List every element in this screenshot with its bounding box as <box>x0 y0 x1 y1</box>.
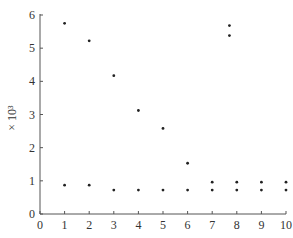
data-point-upper <box>112 74 115 77</box>
x-tick-label: 10 <box>280 218 292 232</box>
data-point-lower <box>285 181 288 184</box>
data-point-lower <box>235 181 238 184</box>
data-point-lower <box>88 184 91 187</box>
data-point-upper <box>228 24 231 27</box>
y-tick-label: 6 <box>29 8 35 22</box>
x-axis: 012345678910 <box>37 211 292 232</box>
y-tick-label: 0 <box>29 207 35 221</box>
y-tick-label: 3 <box>29 108 35 122</box>
data-point-lower <box>285 189 288 192</box>
data-point-upper <box>162 127 165 130</box>
x-tick-label: 2 <box>86 218 92 232</box>
y-axis-label: × 10³ <box>5 105 19 131</box>
data-point-upper <box>88 39 91 42</box>
data-point-lower <box>162 189 165 192</box>
data-point-lower <box>235 189 238 192</box>
data-point-upper <box>63 22 66 25</box>
x-tick-label: 3 <box>111 218 117 232</box>
y-tick-label: 5 <box>29 41 35 55</box>
x-tick-label: 6 <box>185 218 191 232</box>
data-point-lower <box>186 189 189 192</box>
y-tick-label: 2 <box>29 141 35 155</box>
data-points <box>63 22 287 192</box>
data-point-lower <box>112 189 115 192</box>
x-tick-label: 0 <box>37 218 43 232</box>
data-point-lower <box>260 181 263 184</box>
scatter-chart: 0123456 012345678910 × 10³ <box>0 0 293 238</box>
y-tick-label: 1 <box>29 174 35 188</box>
x-tick-label: 4 <box>135 218 141 232</box>
x-tick-label: 9 <box>258 218 264 232</box>
data-point-lower <box>137 189 140 192</box>
x-tick-label: 5 <box>160 218 166 232</box>
data-point-lower <box>211 181 214 184</box>
data-point-lower <box>260 189 263 192</box>
data-point-upper <box>228 34 231 37</box>
x-tick-label: 7 <box>209 218 215 232</box>
y-tick-label: 4 <box>29 74 35 88</box>
data-point-upper <box>137 109 140 112</box>
x-tick-label: 8 <box>234 218 240 232</box>
data-point-upper <box>186 162 189 165</box>
data-point-lower <box>63 184 66 187</box>
x-tick-label: 1 <box>62 218 68 232</box>
data-point-lower <box>211 189 214 192</box>
y-axis: 0123456 <box>29 8 43 221</box>
